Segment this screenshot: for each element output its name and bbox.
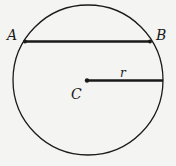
label-center-c: C <box>71 86 82 102</box>
label-a: A <box>5 27 17 43</box>
point-b-dot <box>148 40 152 44</box>
center-dot <box>85 78 89 82</box>
label-radius-r: r <box>120 66 127 80</box>
circle-diagram: A B C r <box>0 0 176 166</box>
label-b: B <box>155 27 166 43</box>
point-a-dot <box>23 40 27 44</box>
